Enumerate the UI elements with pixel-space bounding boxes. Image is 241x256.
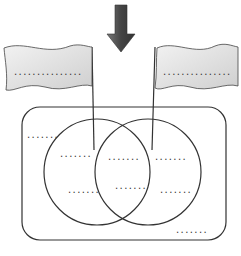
left-only-label-2: ....... <box>68 184 100 195</box>
venn-diagram: ............... ............... ....... … <box>0 0 241 256</box>
left-set-circle <box>44 119 150 225</box>
down-arrow-icon <box>107 5 135 52</box>
right-flag-label: ............... <box>163 66 232 77</box>
right-only-label-1: ....... <box>155 151 187 162</box>
right-set-circle <box>95 119 201 225</box>
left-only-label-1: ....... <box>60 148 92 159</box>
intersection-label-2: ....... <box>115 180 147 191</box>
intersection-label-1: ....... <box>108 151 140 162</box>
right-flag: ............... <box>152 44 238 150</box>
outer-label-top-left: ....... <box>27 129 59 140</box>
left-flag-label: ............... <box>14 66 83 77</box>
right-only-label-2: ....... <box>160 184 192 195</box>
outer-label-bottom-right: ....... <box>176 224 208 235</box>
